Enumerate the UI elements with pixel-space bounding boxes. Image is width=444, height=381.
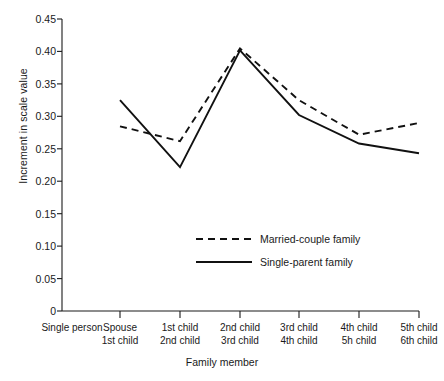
legend-label-married-couple: Married-couple family (260, 233, 360, 245)
x-tick-line-1: 5th child (374, 322, 444, 335)
series-line-married-couple (120, 48, 419, 141)
y-tick-marks (57, 19, 62, 311)
line-chart: Increment in scale value 0.45 0.40 0.35 … (0, 0, 444, 381)
x-axis-title: Family member (0, 356, 444, 368)
x-tick-line-2: 6th child (374, 335, 444, 348)
legend-label-single-parent: Single-parent family (260, 256, 353, 268)
x-tick-marks (120, 311, 419, 318)
series-line-single-parent (120, 50, 419, 167)
x-tick-label-5th-child: 5th child 6th child (374, 322, 444, 347)
